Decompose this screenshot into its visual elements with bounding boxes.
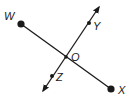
point-w-dot — [17, 20, 24, 27]
geometry-diagram: W X Y Z O — [0, 0, 126, 103]
point-o-dot — [64, 55, 68, 59]
label-z: Z — [55, 71, 64, 83]
line-yz — [43, 7, 99, 91]
label-w: W — [4, 10, 16, 22]
label-y: Y — [93, 20, 101, 32]
point-z-dot — [50, 74, 54, 78]
label-o: O — [71, 51, 80, 63]
point-x-dot — [107, 85, 114, 92]
point-y-dot — [87, 21, 91, 25]
label-x: X — [117, 84, 126, 96]
